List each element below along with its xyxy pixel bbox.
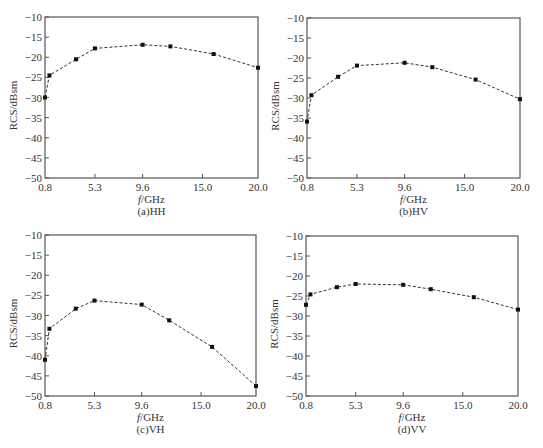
y-tick-label: −45 (25, 370, 43, 382)
chart-panel-a: −10−15−20−25−30−35−40−45−500.85.39.615.0… (45, 17, 258, 178)
data-point-marker (254, 384, 258, 388)
y-tick-label: −15 (25, 31, 43, 43)
data-point-marker (336, 75, 340, 79)
y-tick-label: −45 (287, 152, 305, 164)
x-tick-label: 20.0 (246, 399, 266, 411)
x-tick-label: 15.0 (193, 181, 213, 193)
plot-frame (306, 236, 518, 396)
x-tick-label: 20.0 (248, 181, 268, 193)
x-tick-label: 9.6 (135, 399, 149, 411)
y-tick-label: −45 (286, 370, 304, 382)
y-tick-label: −30 (25, 92, 43, 104)
y-tick-label: −20 (286, 270, 304, 282)
data-point-marker (93, 46, 97, 50)
data-series-line (45, 45, 258, 98)
y-axis-label: RCS/dBsm (7, 298, 19, 348)
y-tick-label: −25 (25, 71, 43, 83)
x-tick-label: 0.8 (38, 399, 52, 411)
data-point-marker (472, 295, 476, 299)
data-point-marker (92, 299, 96, 303)
y-axis-label: RCS/dBsm (7, 80, 19, 130)
panel-caption: (d)VV (398, 423, 427, 436)
y-tick-label: −10 (25, 229, 43, 241)
y-tick-label: −40 (286, 350, 304, 362)
x-tick-label: 15.0 (455, 181, 475, 193)
data-series-line (307, 63, 520, 122)
data-point-marker (335, 285, 339, 289)
data-point-marker (403, 61, 407, 65)
data-point-marker (47, 73, 51, 77)
data-point-marker (355, 64, 359, 68)
x-tick-label: 0.8 (299, 399, 313, 411)
data-point-marker (43, 358, 47, 362)
y-tick-label: −20 (287, 52, 305, 64)
y-tick-label: −40 (25, 350, 43, 362)
x-tick-label: 20.0 (510, 181, 530, 193)
x-tick-label: 15.0 (453, 399, 473, 411)
x-tick-label: 5.3 (88, 181, 102, 193)
y-tick-label: −30 (287, 92, 305, 104)
y-tick-label: −35 (287, 112, 305, 124)
x-tick-label: 9.6 (398, 181, 412, 193)
x-tick-label: 20.0 (508, 399, 528, 411)
y-tick-label: −10 (287, 12, 305, 24)
data-point-marker (430, 65, 434, 69)
chart-panel-c: −10−15−20−25−30−35−40−45−500.85.39.615.0… (45, 235, 256, 396)
data-point-marker (304, 303, 308, 307)
data-point-marker (474, 78, 478, 82)
chart-svg: −10−15−20−25−30−35−40−45−500.85.39.615.0… (45, 235, 256, 396)
y-tick-label: −40 (287, 132, 305, 144)
data-point-marker (74, 307, 78, 311)
data-point-marker (167, 318, 171, 322)
data-point-marker (308, 292, 312, 296)
y-tick-label: −35 (25, 112, 43, 124)
data-point-marker (212, 52, 216, 56)
x-tick-label: 9.6 (396, 399, 410, 411)
y-tick-label: −30 (286, 310, 304, 322)
x-tick-label: 0.8 (38, 181, 52, 193)
y-axis-label: RCS/dBsm (269, 81, 281, 131)
data-series-line (45, 301, 256, 386)
data-point-marker (518, 97, 522, 101)
y-tick-label: −25 (25, 289, 43, 301)
panel-caption: (b)HV (399, 205, 428, 218)
y-tick-label: −40 (25, 132, 43, 144)
data-point-marker (210, 345, 214, 349)
data-point-marker (256, 66, 260, 70)
x-tick-label: 5.3 (88, 399, 102, 411)
data-point-marker (516, 308, 520, 312)
y-tick-label: −35 (286, 330, 304, 342)
plot-frame (307, 18, 520, 178)
y-tick-label: −25 (286, 290, 304, 302)
y-tick-label: −15 (287, 32, 305, 44)
x-tick-label: 15.0 (191, 399, 211, 411)
data-point-marker (74, 57, 78, 61)
plot-frame (45, 17, 258, 178)
y-tick-label: −20 (25, 51, 43, 63)
panel-caption: (c)VH (136, 423, 164, 436)
plot-frame (45, 235, 256, 396)
chart-panel-d: −10−15−20−25−30−35−40−45−500.85.39.615.0… (306, 236, 518, 396)
chart-svg: −10−15−20−25−30−35−40−45−500.85.39.615.0… (307, 18, 520, 178)
data-point-marker (140, 303, 144, 307)
y-axis-label: RCS/dBsm (268, 299, 280, 349)
y-tick-label: −10 (286, 230, 304, 242)
x-tick-label: 9.6 (136, 181, 150, 193)
data-point-marker (141, 43, 145, 47)
y-tick-label: −30 (25, 310, 43, 322)
y-tick-label: −15 (25, 249, 43, 261)
chart-panel-b: −10−15−20−25−30−35−40−45−500.85.39.615.0… (307, 18, 520, 178)
data-point-marker (354, 282, 358, 286)
y-tick-label: −45 (25, 152, 43, 164)
x-tick-label: 0.8 (300, 181, 314, 193)
chart-svg: −10−15−20−25−30−35−40−45−500.85.39.615.0… (306, 236, 518, 396)
y-tick-label: −35 (25, 330, 43, 342)
chart-svg: −10−15−20−25−30−35−40−45−500.85.39.615.0… (45, 17, 258, 178)
x-axis-label: f/GHz (137, 411, 164, 423)
y-tick-label: −20 (25, 269, 43, 281)
x-tick-label: 5.3 (350, 181, 364, 193)
data-point-marker (168, 44, 172, 48)
panel-caption: (a)HH (137, 205, 165, 218)
y-tick-label: −15 (286, 250, 304, 262)
data-point-marker (401, 283, 405, 287)
